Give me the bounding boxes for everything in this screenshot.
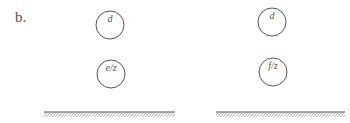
right-bottom-circle-label: f/z [268,60,278,71]
left-bottom-circle-label: e/z [105,62,116,73]
left-diagram: d e/z [44,11,175,117]
left-ground-hatch [44,112,175,117]
right-ground-hatch [216,112,345,117]
left-top-circle-label: d [108,13,114,24]
right-diagram: d f/z [216,8,345,117]
diagram-canvas: d e/z d f/z [0,0,350,123]
right-top-circle-label: d [270,10,276,21]
